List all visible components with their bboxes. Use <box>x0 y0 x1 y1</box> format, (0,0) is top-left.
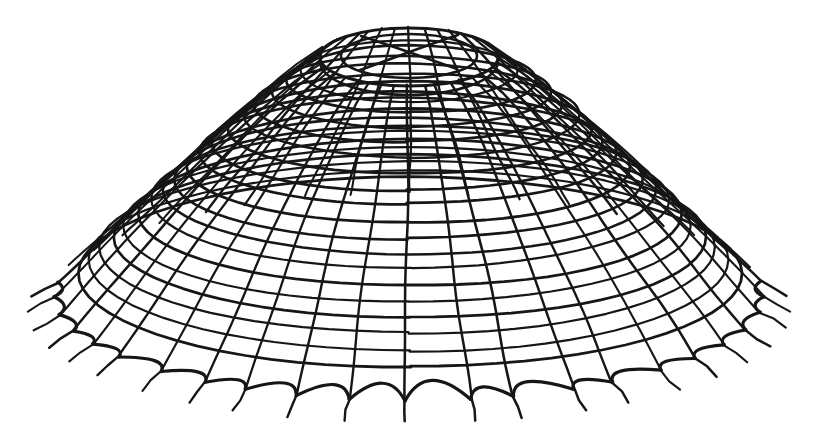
scallop-arc <box>471 387 514 400</box>
scallop-arc <box>405 380 471 401</box>
scallop-arc <box>743 312 760 330</box>
scallop-arc <box>59 315 76 332</box>
net-dome-illustration <box>0 0 819 430</box>
scallop-arc <box>755 297 764 312</box>
scallop-arc <box>54 297 64 315</box>
scallop-arc <box>205 379 245 389</box>
meridian-line <box>404 85 408 421</box>
scallop-arc <box>660 358 695 370</box>
scallop-arc <box>722 330 746 345</box>
scallop-arc <box>513 381 573 396</box>
scallop-arc <box>93 344 121 357</box>
scallop-arc <box>296 385 349 400</box>
scallop-arc <box>161 370 206 382</box>
scallop-arc <box>245 383 296 396</box>
net-dome-drawing-svg <box>0 0 819 430</box>
scallop-arc <box>694 345 724 359</box>
scallop-arc <box>573 379 613 389</box>
scallop-arc <box>349 383 405 401</box>
scallop-arc <box>119 357 162 372</box>
scallop-arc <box>74 331 95 344</box>
meridian-line <box>489 72 747 363</box>
scallop-arc <box>755 282 764 297</box>
scallop-arc <box>612 369 661 382</box>
